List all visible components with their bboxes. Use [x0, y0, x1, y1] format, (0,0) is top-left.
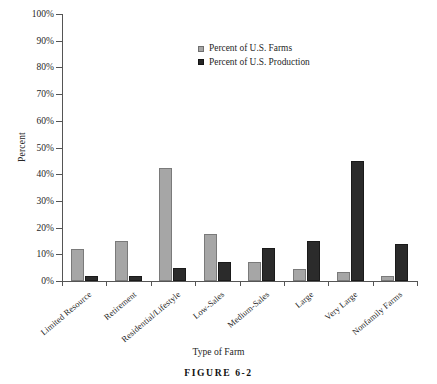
legend-swatch-production-icon: [198, 59, 204, 65]
y-axis-tick-mark: [56, 94, 62, 95]
bar-production: [85, 276, 98, 281]
bar-production: [173, 268, 186, 281]
bar-farms: [337, 272, 350, 281]
x-axis-tick-mark: [151, 281, 152, 286]
x-axis-tick-mark: [284, 281, 285, 286]
y-axis-tick-mark: [56, 148, 62, 149]
bar-production: [218, 262, 231, 281]
y-axis-tick-mark: [56, 174, 62, 175]
y-axis-tick-label: 30%: [37, 196, 54, 206]
bar-farms: [159, 168, 172, 281]
bar-group: [115, 14, 142, 281]
x-axis-tick-mark: [195, 281, 196, 286]
legend-item-farms: Percent of U.S. Farms: [198, 42, 310, 56]
y-axis-tick-label: 60%: [37, 116, 54, 126]
y-axis-tick-mark: [56, 201, 62, 202]
y-axis-tick-label: 70%: [37, 89, 54, 99]
y-axis-tick-label: 10%: [37, 249, 54, 259]
y-axis-tick-label: 100%: [32, 9, 54, 19]
y-axis-tick-label: 50%: [37, 143, 54, 153]
bar-farms: [248, 262, 261, 281]
y-axis-tick-mark: [56, 41, 62, 42]
legend-label-farms: Percent of U.S. Farms: [209, 42, 292, 56]
x-axis-tick-mark: [106, 281, 107, 286]
bar-farms: [71, 249, 84, 281]
y-axis-tick-mark: [56, 254, 62, 255]
bar-production: [351, 161, 364, 281]
x-axis-tick-mark: [240, 281, 241, 286]
bar-production: [307, 241, 320, 281]
x-axis-tick-mark: [373, 281, 374, 286]
y-axis-tick-mark: [56, 121, 62, 122]
legend-swatch-farms-icon: [198, 46, 204, 52]
figure-container: Percent 0%10%20%30%40%50%60%70%80%90%100…: [0, 0, 437, 384]
bar-farms: [293, 269, 306, 281]
legend-label-production: Percent of U.S. Production: [209, 56, 310, 70]
x-axis-title: Type of Farm: [0, 346, 437, 357]
x-axis-tick-mark: [328, 281, 329, 286]
x-axis-tick-mark: [62, 281, 63, 286]
bar-group: [159, 14, 186, 281]
figure-caption: FIGURE 6-2: [0, 367, 437, 378]
y-axis-tick-mark: [56, 228, 62, 229]
y-axis-title: Percent: [17, 112, 27, 182]
legend-item-production: Percent of U.S. Production: [198, 56, 310, 70]
y-axis-tick-label: 80%: [37, 62, 54, 72]
bar-farms: [115, 241, 128, 281]
bar-production: [395, 244, 408, 281]
bar-production: [262, 248, 275, 281]
y-axis-tick-mark: [56, 14, 62, 15]
chart-legend: Percent of U.S. Farms Percent of U.S. Pr…: [198, 42, 310, 69]
x-axis-tick-mark: [417, 281, 418, 286]
bar-group: [71, 14, 98, 281]
y-axis-line: [62, 14, 63, 282]
y-axis-tick-label: 20%: [37, 223, 54, 233]
y-axis-tick-label: 40%: [37, 169, 54, 179]
bar-group: [381, 14, 408, 281]
bar-group: [337, 14, 364, 281]
bar-farms: [204, 234, 217, 281]
y-axis-tick-label: 90%: [37, 36, 54, 46]
y-axis-tick-label: 0%: [41, 276, 54, 286]
bar-production: [129, 276, 142, 281]
y-axis-tick-mark: [56, 67, 62, 68]
bar-farms: [381, 276, 394, 281]
